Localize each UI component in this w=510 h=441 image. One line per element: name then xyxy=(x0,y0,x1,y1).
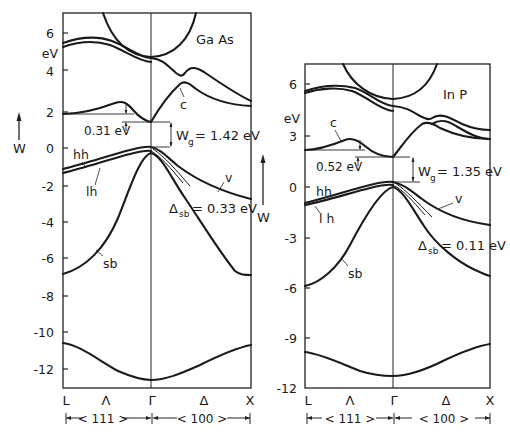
y-tick-label: -3 xyxy=(285,231,297,246)
gap-value: = 1.35 eV xyxy=(437,164,502,179)
gap-subscript: g xyxy=(430,173,436,183)
k-label-gamma: Γ xyxy=(148,393,156,408)
direction-100: < 100 > xyxy=(177,412,228,426)
y-unit-label: eV xyxy=(284,111,301,126)
k-label-lambda: Λ xyxy=(102,393,111,408)
band-label-v: v xyxy=(455,191,463,206)
split-off-subscript: sb xyxy=(428,246,439,256)
k-point-labels: L Λ Γ Δ X xyxy=(304,393,494,408)
gap-marker xyxy=(393,157,420,182)
y-tick-label: -6 xyxy=(42,251,55,266)
y-tick-label: 2 xyxy=(46,105,54,120)
y-tick-labels: 6 eV 3 0 -3 -6 -9 -12 xyxy=(277,77,301,396)
gap-value: = 1.42 eV xyxy=(195,128,260,143)
band-label-hh: hh xyxy=(316,184,332,199)
plot-frame xyxy=(305,64,490,388)
offset-label: 0.52 eV xyxy=(316,160,363,174)
y-tick-label: 6 xyxy=(289,77,297,92)
band-label-sb: sb xyxy=(348,266,363,281)
direction-111: < 111 > xyxy=(325,412,376,426)
y-tick-label: 6 xyxy=(46,26,54,41)
gaas-panel: W 6 eV 4 2 0 -2 -4 -6 -8 -10 -12 xyxy=(13,13,260,426)
band-label-hh: hh xyxy=(73,147,89,162)
y-tick-label: 4 xyxy=(46,64,54,79)
y-tick-labels: 6 eV 4 2 0 -2 -4 -6 -8 -10 -12 xyxy=(34,26,59,377)
y-tick-label: -8 xyxy=(42,289,55,304)
w-axis-arrow-icon xyxy=(17,112,22,140)
material-label: In P xyxy=(443,87,467,102)
y-ticks xyxy=(63,33,68,369)
split-off-value: = 0.11 eV xyxy=(441,238,506,253)
k-label-L: L xyxy=(304,393,312,408)
y-tick-label: -12 xyxy=(277,381,297,396)
band-label-c: c xyxy=(330,115,337,130)
k-label-delta: Δ xyxy=(442,393,451,408)
k-label-X: X xyxy=(486,393,495,408)
w-axis-arrow-icon xyxy=(261,154,266,205)
k-point-labels: L Λ Γ Δ X xyxy=(62,393,254,408)
k-label-X: X xyxy=(246,393,255,408)
split-off-symbol: Δ xyxy=(418,238,427,253)
y-tick-label: -9 xyxy=(285,331,298,346)
k-label-delta: Δ xyxy=(200,393,209,408)
band-label-c: c xyxy=(180,97,187,112)
k-label-gamma: Γ xyxy=(390,393,398,408)
y-tick-label: -4 xyxy=(42,215,55,230)
k-label-L: L xyxy=(62,393,70,408)
direction-100: < 100 > xyxy=(419,412,470,426)
y-tick-label: -10 xyxy=(34,325,54,340)
gap-subscript: g xyxy=(188,137,194,147)
split-off-subscript: sb xyxy=(179,209,190,219)
y-tick-label: 3 xyxy=(289,129,297,144)
y-tick-label: -6 xyxy=(285,281,298,296)
band-structure-figure: W 6 eV 4 2 0 -2 -4 -6 -8 -10 -12 xyxy=(0,0,510,441)
k-label-lambda: Λ xyxy=(346,393,355,408)
split-off-symbol: Δ xyxy=(169,201,178,216)
material-label: Ga As xyxy=(196,32,234,47)
band-label-sb: sb xyxy=(103,256,118,271)
y-tick-label: 0 xyxy=(46,141,54,156)
y-unit-label: eV xyxy=(42,46,59,61)
band-label-v: v xyxy=(225,170,233,185)
inp-panel: W 6 eV 3 0 -3 -6 -9 -12 xyxy=(257,64,506,426)
gap-marker xyxy=(151,122,173,147)
band-label-lh: l h xyxy=(319,211,334,226)
y-tick-label: 0 xyxy=(289,180,297,195)
w-axis-symbol: W xyxy=(13,141,26,156)
y-tick-label: -12 xyxy=(34,362,54,377)
y-tick-label: -2 xyxy=(42,179,54,194)
band-label-lh: lh xyxy=(86,184,97,199)
offset-label: 0.31 eV xyxy=(84,124,131,138)
y-ticks xyxy=(305,84,310,338)
w-axis-symbol: W xyxy=(257,210,270,225)
direction-111: < 111 > xyxy=(78,412,129,426)
split-off-value: = 0.33 eV xyxy=(192,201,257,216)
